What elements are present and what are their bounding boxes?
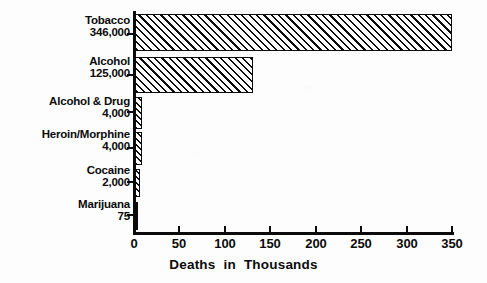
x-tick-label-100: 100: [214, 236, 236, 251]
x-axis-title-word: Thousands: [244, 257, 318, 272]
x-axis-tick: [224, 226, 226, 233]
category-label-heroin-morphine: Heroin/Morphine 4,000: [0, 129, 130, 153]
bar-heroin-morphine: [135, 132, 142, 165]
bar-marijuana: [135, 202, 138, 230]
category-value: 346,000: [0, 27, 130, 39]
category-value: 4,000: [0, 108, 130, 120]
x-tick-label-200: 200: [305, 236, 327, 251]
y-axis-tick: [127, 74, 133, 76]
x-tick-label-250: 250: [350, 236, 372, 251]
x-axis-tick: [269, 226, 271, 233]
x-axis-tick: [451, 226, 453, 233]
x-axis-title-word: in: [224, 257, 236, 272]
category-label-cocaine: Cocaine 2,000: [0, 165, 130, 189]
bar-alcohol: [135, 57, 253, 93]
category-label-alcohol: Alcohol 125,000: [0, 56, 130, 80]
category-value: 125,000: [0, 68, 130, 80]
x-axis-tick: [178, 226, 180, 233]
bar-alcohol-and-drug: [135, 97, 142, 129]
x-tick-label-150: 150: [259, 236, 281, 251]
y-axis-tick: [127, 33, 133, 35]
y-axis-tick: [127, 111, 133, 113]
y-axis-tick: [127, 214, 133, 216]
x-axis-tick: [406, 226, 408, 233]
bar-tobacco: [135, 14, 452, 51]
x-axis-tick: [315, 226, 317, 233]
x-axis-tick: [133, 226, 135, 233]
bar-chart: Tobacco 346,000 Alcohol 125,000 Alcohol …: [0, 0, 487, 283]
y-axis-tick: [127, 147, 133, 149]
category-label-tobacco: Tobacco 346,000: [0, 15, 130, 39]
x-axis-tick: [360, 226, 362, 233]
category-name: Marijuana: [0, 199, 130, 211]
category-label-alcohol-and-drug: Alcohol & Drug 4,000: [0, 96, 130, 120]
x-tick-label-50: 50: [172, 236, 186, 251]
x-tick-label-350: 350: [441, 236, 463, 251]
x-axis-title: DeathsinThousands: [0, 257, 487, 272]
category-value: 4,000: [0, 141, 130, 153]
x-tick-label-0: 0: [130, 236, 137, 251]
category-label-marijuana: Marijuana 75: [0, 199, 130, 223]
category-value: 75: [0, 211, 130, 223]
y-axis-tick: [127, 181, 133, 183]
category-value: 2,000: [0, 177, 130, 189]
x-axis-title-word: Deaths: [169, 257, 215, 272]
x-tick-label-300: 300: [396, 236, 418, 251]
bar-cocaine: [135, 169, 140, 197]
